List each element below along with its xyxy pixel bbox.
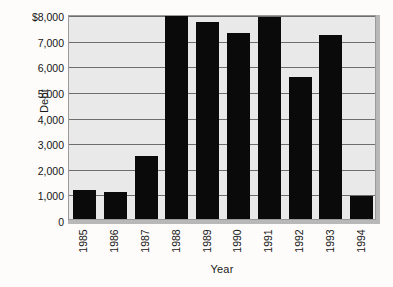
x-tick-label-1990: 1990 bbox=[220, 224, 254, 258]
y-axis-tick-labels: 01,0002,0003,0004,0005,0006,0007,000$8,0… bbox=[20, 17, 64, 220]
y-tick-label-6000: 6,000 bbox=[20, 63, 64, 73]
bar-1985 bbox=[73, 190, 96, 219]
x-tick-label-1989: 1989 bbox=[190, 224, 224, 258]
x-tick-label-1993: 1993 bbox=[313, 224, 347, 258]
y-tick-label-1000: 1,000 bbox=[20, 191, 64, 201]
x-axis-tick-labels: 1985198619871988198919901991199219931994 bbox=[68, 224, 376, 264]
x-tick-label-1985: 1985 bbox=[66, 224, 100, 258]
x-tick-label-1992: 1992 bbox=[282, 224, 316, 258]
x-tick-label-1986: 1986 bbox=[97, 224, 131, 258]
y-tick-label-5000: 5,000 bbox=[20, 89, 64, 99]
bar-1988 bbox=[165, 15, 188, 219]
x-tick-label-1987: 1987 bbox=[128, 224, 162, 258]
bar-1987 bbox=[135, 156, 158, 219]
bar-1993 bbox=[319, 35, 342, 220]
plot-area bbox=[68, 15, 376, 220]
bar-1990 bbox=[227, 33, 250, 219]
bar-series bbox=[69, 16, 375, 219]
bar-1991 bbox=[258, 17, 281, 219]
y-tick-label-4000: 4,000 bbox=[20, 115, 64, 125]
bar-1994 bbox=[350, 196, 373, 219]
y-tick-label-7000: 7,000 bbox=[20, 38, 64, 48]
y-tick-label-3000: 3,000 bbox=[20, 140, 64, 150]
x-tick-label-1988: 1988 bbox=[159, 224, 193, 258]
bar-chart-figure: Debt 01,0002,0003,0004,0005,0006,0007,00… bbox=[0, 0, 393, 287]
bar-1992 bbox=[289, 77, 312, 219]
bar-1986 bbox=[104, 192, 127, 219]
x-tick-label-1991: 1991 bbox=[251, 224, 285, 258]
y-tick-label-2000: 2,000 bbox=[20, 166, 64, 176]
x-axis-title: Year bbox=[68, 263, 376, 275]
y-tick-label-8000: $8,000 bbox=[20, 12, 64, 22]
bar-1989 bbox=[196, 22, 219, 219]
y-tick-label-0: 0 bbox=[20, 217, 64, 227]
x-tick-label-1994: 1994 bbox=[344, 224, 378, 258]
